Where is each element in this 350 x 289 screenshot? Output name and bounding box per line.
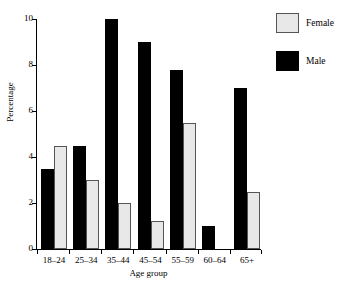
female-swatch-icon — [276, 13, 299, 33]
x-group-label-2: 35–44 — [107, 255, 130, 266]
bar-male-3 — [138, 42, 151, 249]
x-group-label-3: 45–54 — [139, 255, 162, 266]
x-group-label-4: 55–59 — [171, 255, 194, 266]
x-tick-mark — [37, 250, 38, 254]
y-tick: 10 — [36, 19, 37, 20]
y-tick-label: 4 — [29, 151, 34, 161]
y-tick-label: 10 — [24, 13, 33, 23]
y-tick-label: 6 — [29, 105, 34, 115]
x-tick-mark — [69, 250, 70, 254]
y-tick: 6 — [36, 111, 37, 112]
y-tick: 4 — [36, 157, 37, 158]
y-axis-title: Percentage — [5, 64, 15, 140]
clipped-caption — [44, 0, 244, 1]
x-group-label-0: 18–24 — [43, 255, 66, 266]
x-tick-mark — [261, 250, 262, 254]
bar-male-4 — [170, 70, 183, 249]
x-group-label-5: 60–64 — [204, 255, 227, 266]
legend-item-female: Female — [276, 13, 346, 33]
x-group-label-1: 25–34 — [75, 255, 98, 266]
bar-female-3 — [151, 221, 164, 249]
bar-female-2 — [118, 203, 131, 249]
y-tick-label: 8 — [29, 59, 34, 69]
bar-male-1 — [73, 146, 86, 250]
legend-item-male: Male — [276, 51, 346, 71]
x-group-label-6: 65+ — [240, 255, 254, 266]
bar-male-5 — [202, 226, 215, 249]
x-tick-mark — [166, 250, 167, 254]
bar-male-6 — [234, 88, 247, 249]
bar-male-2 — [105, 19, 118, 249]
x-axis-title: Age group — [36, 268, 261, 278]
y-tick-label: 2 — [29, 197, 34, 207]
x-tick-mark — [230, 250, 231, 254]
bar-female-0 — [54, 146, 67, 250]
bar-female-6 — [247, 192, 260, 250]
bar-female-4 — [183, 123, 196, 250]
bar-female-1 — [86, 180, 99, 249]
male-swatch-icon — [276, 51, 299, 71]
x-tick-mark — [101, 250, 102, 254]
x-tick-mark — [133, 250, 134, 254]
y-tick: 8 — [36, 65, 37, 66]
legend-label-male: Male — [306, 56, 326, 66]
legend-label-female: Female — [306, 18, 334, 28]
bar-male-0 — [41, 169, 54, 250]
bar-chart-figure: 0246810 18–2425–3435–4445–5455–5960–6465… — [0, 0, 350, 289]
y-tick-label: 0 — [29, 243, 34, 253]
chart-legend: Female Male — [276, 13, 346, 89]
y-tick: 2 — [36, 203, 37, 204]
x-tick-mark — [198, 250, 199, 254]
plot-area: 0246810 18–2425–3435–4445–5455–5960–6465… — [36, 19, 261, 250]
y-axis-line — [36, 19, 37, 250]
